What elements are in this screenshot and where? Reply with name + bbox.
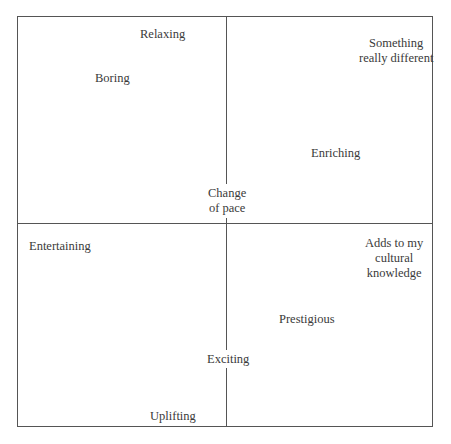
label-change-of-pace: Change of pace	[208, 186, 246, 216]
label-entertaining: Entertaining	[29, 239, 91, 254]
label-exciting: Exciting	[207, 352, 249, 367]
label-relaxing: Relaxing	[140, 27, 185, 42]
label-line: Something	[359, 36, 433, 51]
label-line: cultural	[365, 251, 423, 266]
label-prestigious: Prestigious	[279, 312, 335, 327]
label-line: Adds to my	[365, 236, 423, 251]
label-line: of pace	[208, 201, 246, 216]
label-line: really different	[359, 51, 433, 66]
label-something-really-different: Something really different	[359, 36, 433, 66]
horizontal-axis-divider	[17, 223, 433, 224]
label-adds-to-my-cultural-knowledge: Adds to my cultural knowledge	[365, 236, 423, 281]
label-uplifting: Uplifting	[150, 409, 196, 424]
label-enriching: Enriching	[311, 146, 360, 161]
label-boring: Boring	[95, 71, 130, 86]
label-line: Change	[208, 186, 246, 201]
label-line: knowledge	[365, 266, 423, 281]
